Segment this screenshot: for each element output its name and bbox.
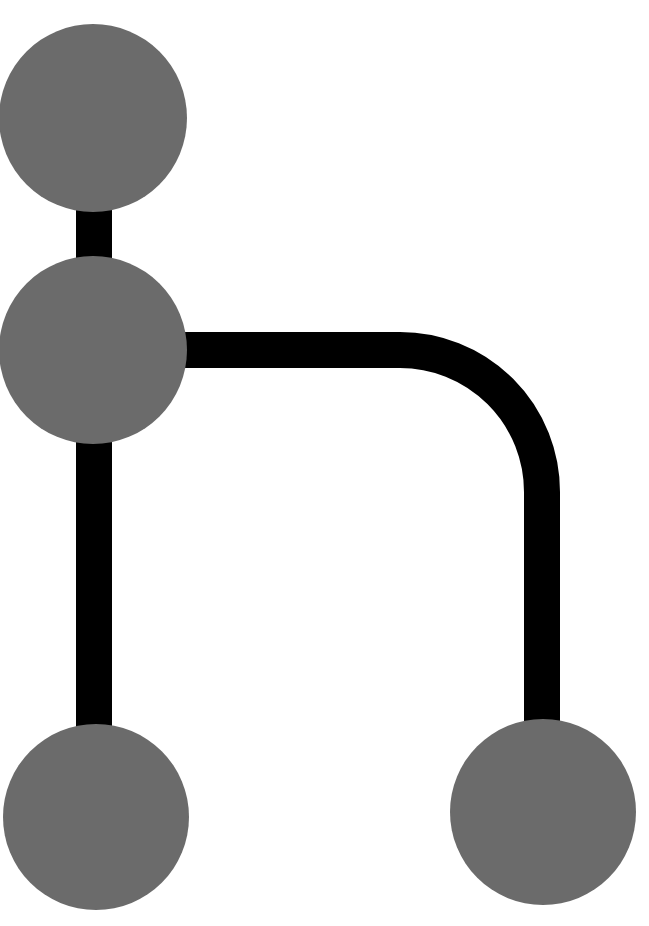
edges: [76, 150, 542, 770]
commit-node-branch-tip[interactable]: [450, 719, 636, 905]
branch-line-edge: [150, 350, 542, 760]
git-branch-diagram: [0, 0, 649, 926]
commit-node-branch-point[interactable]: [0, 256, 187, 444]
commit-node-top[interactable]: [0, 24, 187, 212]
commit-node-main-tip[interactable]: [3, 724, 189, 910]
main-line-edge: [76, 150, 112, 770]
